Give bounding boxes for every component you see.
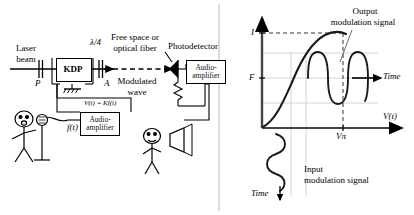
chart-x-axis xyxy=(262,125,402,131)
chart-gridlines xyxy=(262,53,378,128)
input-signal-label: f(t) xyxy=(67,122,78,132)
transfer-curve xyxy=(263,32,346,127)
drive-equation-label: V(t) = Kf(t) xyxy=(84,98,116,108)
ground-symbol xyxy=(64,84,82,93)
output-modulation-label-line1: Output xyxy=(322,6,408,16)
talker-stick-figure xyxy=(12,111,36,162)
quarter-wave-plate-label: λ/4 xyxy=(90,37,101,47)
listener-stick-figure xyxy=(143,129,161,175)
laser-beam-label-line2: beam xyxy=(6,54,46,64)
output-modulation-label-line2: modulation signal xyxy=(312,17,414,27)
photodetector-element xyxy=(165,52,186,78)
microphone xyxy=(34,115,50,161)
photodetector-label: Photodetector xyxy=(168,41,218,51)
chart-guide-lines xyxy=(262,33,343,128)
audio-amplifier-transmit: Audio- amplifier xyxy=(80,112,120,136)
chart-y-tick-F: F xyxy=(249,72,255,82)
chart-time-label-bottom: Time xyxy=(251,188,269,198)
channel-label-line2: optical fiber xyxy=(104,43,166,53)
audio-amplifier-transmit-line2: amplifier xyxy=(86,124,114,133)
input-modulation-label-line1: Input xyxy=(304,164,323,174)
chart-y-tick-I: I xyxy=(251,27,254,37)
microphone-wiring xyxy=(44,117,80,121)
polarizer-label: P xyxy=(35,78,41,88)
input-modulation-signal xyxy=(267,134,285,191)
input-modulation-label-line2: modulation signal xyxy=(304,175,369,185)
input-signal-guides xyxy=(291,128,306,196)
audio-amplifier-receive-line2: amplifier xyxy=(192,72,220,81)
chart-x-axis-label: V(t) xyxy=(383,111,397,121)
laser-beam-label-line1: Laser xyxy=(6,43,46,53)
modulated-wave-label-line1: Modulated xyxy=(108,76,166,86)
chart-time-label-top: Time xyxy=(383,71,401,81)
figure-canvas: Laser beam P KDP λ/4 A Free space or opt… xyxy=(0,0,414,215)
chart-y-axis xyxy=(259,18,265,128)
kdp-crystal-label: KDP xyxy=(56,64,90,74)
modulated-wave-label-line2: wave xyxy=(108,87,166,97)
chart-x-tick-Vpi: Vπ xyxy=(336,131,346,141)
loudspeaker xyxy=(170,124,192,156)
channel-label-line1: Free space or xyxy=(104,32,166,42)
audio-amplifier-receive: Audio- amplifier xyxy=(186,60,226,84)
